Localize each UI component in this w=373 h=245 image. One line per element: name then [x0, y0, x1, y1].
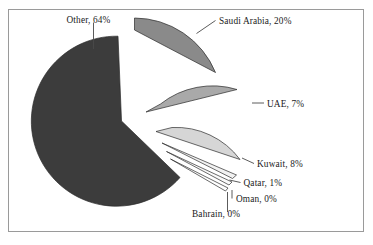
pie-slice-other[interactable] [31, 36, 180, 206]
pie-label-qatar: Qatar, 1% [244, 178, 283, 188]
pie-label-bahrain: Bahrain, 0% [192, 209, 240, 219]
pie-slice-uae[interactable] [146, 86, 237, 112]
pie-label-other: Other, 64% [67, 15, 111, 25]
pie-slice-saudi-arabia[interactable] [135, 18, 216, 73]
leader-line-saudi-arabia [197, 21, 216, 34]
pie-label-oman: Oman, 0% [236, 194, 277, 204]
pie-slice-bahrain[interactable] [171, 159, 229, 191]
pie-slice-kuwait[interactable] [156, 127, 240, 159]
pie-chart-canvas: Other, 64% Saudi Arabia, 20% UAE, 7% Kuw… [0, 0, 373, 245]
pie-label-kuwait: Kuwait, 8% [257, 159, 303, 169]
pie-chart-figure: Other, 64% Saudi Arabia, 20% UAE, 7% Kuw… [0, 0, 373, 245]
pie-label-uae: UAE, 7% [267, 99, 304, 109]
leader-line-kuwait [242, 158, 254, 164]
pie-label-saudi-arabia: Saudi Arabia, 20% [219, 16, 292, 26]
